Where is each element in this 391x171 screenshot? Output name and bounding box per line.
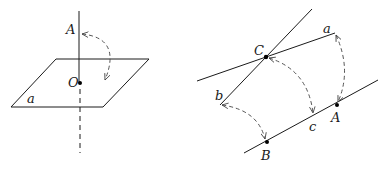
- arc-b-to-B: [222, 105, 265, 139]
- arc-a-to-A: [336, 35, 345, 102]
- point-A: [335, 103, 339, 107]
- diagram-canvas: A O a C a b c A B: [0, 0, 391, 171]
- line-BA: [244, 80, 378, 153]
- point-B: [265, 140, 269, 144]
- right-figure: C a b c A B: [197, 9, 378, 163]
- label-c: c: [309, 119, 317, 134]
- label-A-right: A: [330, 110, 340, 125]
- label-B: B: [260, 148, 271, 163]
- label-plane-a: a: [27, 91, 35, 106]
- left-figure: A O a: [11, 11, 149, 153]
- point-C: [264, 55, 268, 59]
- label-A-left: A: [65, 22, 75, 37]
- label-a-right: a: [323, 21, 331, 36]
- label-O: O: [68, 75, 79, 90]
- label-b: b: [215, 88, 223, 103]
- rotation-arc: [82, 34, 110, 80]
- label-C: C: [254, 43, 264, 58]
- arc-C-to-c: [269, 58, 313, 113]
